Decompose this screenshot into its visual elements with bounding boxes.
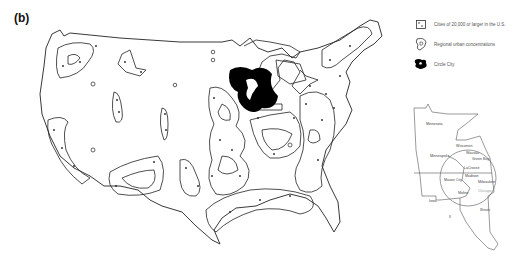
legend-label: Cities of 20,000 or larger in the U.S. bbox=[434, 22, 506, 27]
city-dots bbox=[53, 45, 351, 213]
inset-label-iowa: Iowa bbox=[429, 199, 437, 203]
inset-label-chicago: Chicago bbox=[478, 189, 491, 193]
regional-urban-outline-icon bbox=[412, 36, 430, 52]
legend-label: Regional urban concentrations bbox=[434, 42, 495, 47]
legend: Cities of 20,000 or larger in the U.S. R… bbox=[412, 14, 512, 74]
inset-label-mason-city: Mason City bbox=[444, 178, 462, 182]
legend-item-cities: Cities of 20,000 or larger in the U.S. bbox=[412, 14, 512, 34]
circle-city-blob bbox=[229, 67, 278, 112]
inset-label-green-bay: Green Bay bbox=[472, 157, 489, 161]
legend-item-regional: Regional urban concentrations bbox=[412, 34, 512, 54]
inset-label-minneapolis: Minneapolis bbox=[430, 154, 449, 158]
circle-city-blob-icon bbox=[412, 56, 430, 72]
inset-label-wisconsin: Wisconsin bbox=[456, 144, 472, 148]
inset-label-lacrosse: LaCrosse bbox=[464, 166, 479, 170]
inset-label-wausau: Wausau bbox=[466, 151, 479, 155]
legend-item-circle-city: Circle City bbox=[412, 54, 512, 74]
inset-label-minnesota: Minnesota bbox=[426, 122, 443, 126]
city-dot-square-icon bbox=[412, 16, 430, 32]
inset-label-milwaukee: Milwaukee bbox=[478, 180, 495, 184]
inset-label-il: Il bbox=[449, 215, 451, 219]
regional-urban-concentrations bbox=[48, 27, 372, 232]
legend-label: Circle City bbox=[434, 62, 455, 67]
inset-label-madison: Madison bbox=[465, 174, 479, 178]
inset-label-moline: Moline bbox=[458, 191, 469, 195]
inset-label-illinois: Illinois bbox=[480, 208, 490, 212]
